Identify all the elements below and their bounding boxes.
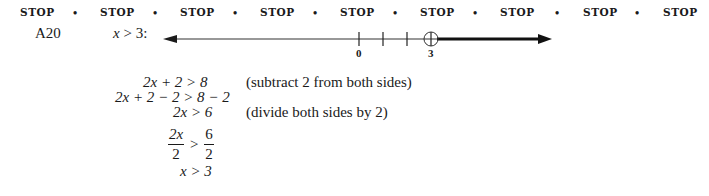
- tick-label-3: 3: [428, 47, 434, 59]
- step-3-equation: 2x > 6: [173, 104, 212, 121]
- tick-label-0: 0: [356, 47, 362, 59]
- step-5-equation: x > 3: [180, 163, 212, 180]
- fraction-left: 2x 2: [168, 127, 184, 162]
- step-3-note: (divide both sides by 2): [246, 104, 388, 121]
- fraction-right: 6 2: [204, 127, 214, 162]
- step-1-note: (subtract 2 from both sides): [246, 74, 412, 91]
- number-line: [0, 0, 709, 196]
- step-4-equation: 2x 2 > 6 2: [168, 127, 214, 162]
